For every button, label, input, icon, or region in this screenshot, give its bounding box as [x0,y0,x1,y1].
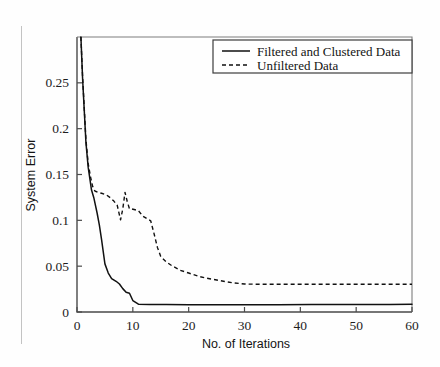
line-chart: 00.050.10.150.20.25 0102030405060 System… [0,0,440,367]
x-tick-label-4: 40 [294,318,308,333]
x-tick-label-0: 0 [74,318,81,333]
x-axis-ticks: 0102030405060 [74,307,419,333]
series-unfiltered-data [81,37,412,284]
y-tick-label-1: 0.05 [45,259,69,274]
axis-frame [77,37,412,312]
axis-spines-top-right [77,37,412,312]
x-tick-label-6: 60 [405,318,419,333]
figure-container: 00.050.10.150.20.25 0102030405060 System… [0,0,440,367]
y-tick-label-3: 0.15 [45,167,69,182]
data-series-group [81,37,412,305]
y-tick-label-5: 0.25 [45,75,69,90]
legend-label-0: Filtered and Clustered Data [257,44,401,59]
legend-label-1: Unfiltered Data [257,58,338,73]
x-tick-label-5: 50 [349,318,363,333]
y-tick-label-4: 0.2 [52,121,69,136]
series-filtered-and-clustered-data [81,37,412,305]
y-tick-label-2: 0.1 [52,213,69,228]
x-axis-title: No. of Iterations [202,337,290,351]
x-tick-label-1: 10 [126,318,140,333]
y-axis-title: System Error [24,139,38,212]
legend: Filtered and Clustered Data Unfiltered D… [213,40,412,73]
y-tick-label-0: 0 [62,305,69,320]
x-tick-label-2: 20 [182,318,196,333]
axis-spines-left-bottom [77,37,412,312]
x-tick-label-3: 30 [238,318,252,333]
